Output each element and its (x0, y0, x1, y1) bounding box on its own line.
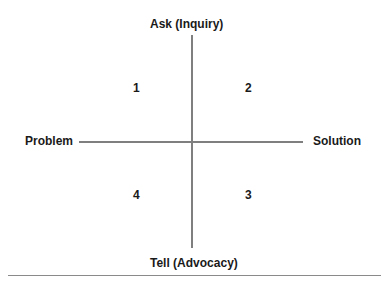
bottom-divider (8, 275, 381, 276)
axis-label-left: Problem (25, 134, 73, 148)
quadrant-4-label: 4 (133, 188, 140, 202)
quadrant-2-label: 2 (245, 81, 252, 95)
axis-label-bottom: Tell (Advocacy) (150, 256, 238, 270)
axis-label-right: Solution (313, 134, 361, 148)
quadrant-3-label: 3 (245, 188, 252, 202)
horizontal-axis-line (79, 141, 303, 143)
quadrant-1-label: 1 (133, 81, 140, 95)
axis-label-top: Ask (Inquiry) (150, 17, 223, 31)
